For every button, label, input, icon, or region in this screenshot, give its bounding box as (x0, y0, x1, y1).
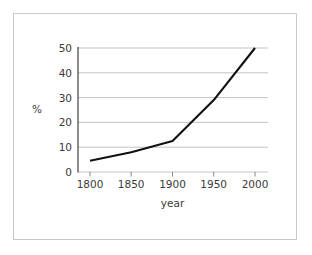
y-tick-label-20: 20 (59, 116, 72, 128)
x-tick-label-1850: 1850 (118, 178, 145, 190)
y-tick-label-50: 50 (59, 42, 72, 54)
y-axis-title: % (32, 103, 42, 115)
y-tick-label-0: 0 (65, 166, 72, 178)
x-tick-label-2000: 2000 (242, 178, 269, 190)
chart-figure: 50 40 30 20 10 0 1800 1850 1900 1950 200… (0, 0, 312, 255)
x-tick-label-1800: 1800 (77, 178, 104, 190)
data-series-line (90, 48, 255, 161)
x-tick-label-1950: 1950 (200, 178, 227, 190)
y-tick-label-30: 30 (59, 92, 72, 104)
x-tick-marks-group (90, 172, 255, 177)
y-tick-label-10: 10 (59, 141, 72, 153)
line-chart-canvas: 50 40 30 20 10 0 1800 1850 1900 1950 200… (0, 0, 312, 255)
x-axis-title: year (161, 197, 185, 209)
x-tick-label-1900: 1900 (159, 178, 186, 190)
x-tick-labels-group: 1800 1850 1900 1950 2000 (77, 178, 269, 190)
y-tick-label-40: 40 (59, 67, 72, 79)
y-tick-labels-group: 50 40 30 20 10 0 (59, 42, 72, 178)
